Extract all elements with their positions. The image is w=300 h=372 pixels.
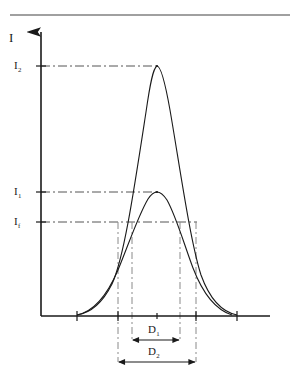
y-tick-label-If: If — [14, 216, 20, 227]
y-tick-label-If-sub: f — [18, 222, 20, 229]
curve-large-peak — [77, 66, 237, 315]
y-tick-label-I1: I1 — [14, 186, 21, 197]
y-axis-label: I — [9, 31, 13, 44]
dimension-label-D1: D1 — [148, 324, 159, 335]
dimension-label-D2-sub: 2 — [156, 352, 159, 359]
y-tick-label-I1-sub: 1 — [18, 192, 21, 199]
curve-small-peak — [77, 192, 232, 315]
y-tick-label-I2-sub: 2 — [18, 66, 21, 73]
dimension-label-D1-base: D — [148, 323, 156, 335]
peak-marker-I2 — [156, 65, 158, 67]
y-tick-label-I2: I2 — [14, 60, 21, 71]
dimension-label-D2-base: D — [148, 345, 156, 357]
dimension-label-D2: D2 — [148, 346, 159, 357]
intensity-profile-diagram — [0, 0, 300, 372]
figure-container: I I2 I1 If D1 D2 — [0, 0, 300, 372]
peak-marker-I1 — [156, 191, 158, 193]
dimension-label-D1-sub: 1 — [156, 330, 159, 337]
